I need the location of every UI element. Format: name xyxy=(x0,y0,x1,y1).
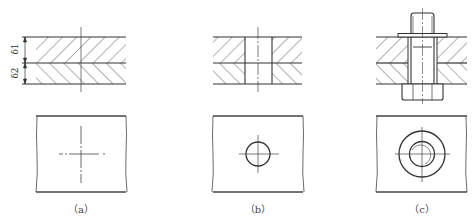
panel-b-top-view xyxy=(212,116,304,192)
thickness-dimension xyxy=(24,37,27,84)
dimension-delta-2: δ2 xyxy=(10,67,20,78)
panel-a-top-view xyxy=(36,116,127,192)
panel-a-section xyxy=(22,27,126,92)
panel-b-label: （b） xyxy=(245,201,271,216)
panel-a-label: （a） xyxy=(68,201,94,216)
panel-c-top-view xyxy=(376,116,467,192)
panel-c-label: （c） xyxy=(409,201,435,216)
panel-c-section xyxy=(376,8,467,104)
panel-b-section xyxy=(213,27,302,92)
bolt-thread-arc xyxy=(412,145,431,164)
bolted-joint-diagram xyxy=(0,0,476,219)
dimension-delta-1: δ1 xyxy=(10,43,20,54)
